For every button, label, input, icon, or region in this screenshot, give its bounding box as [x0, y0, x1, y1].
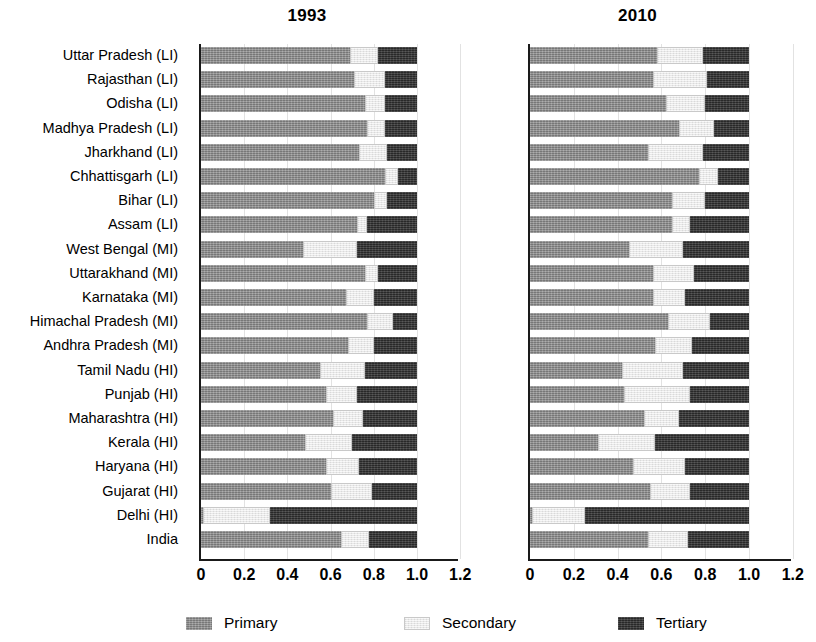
category-label: Rajasthan (LI): [0, 72, 178, 86]
bar-segment-tertiary: [714, 120, 749, 137]
bar-segment-tertiary: [378, 47, 417, 64]
bar-segment-tertiary: [270, 507, 417, 524]
bar-segment-primary: [201, 483, 331, 500]
bar-segment-secondary: [365, 95, 384, 112]
x-tick-label: 1.0: [729, 566, 769, 584]
gridline: [460, 44, 461, 559]
category-axis-labels: Uttar Pradesh (LI)Rajasthan (LI)Odisha (…: [0, 44, 186, 561]
bar-segment-secondary: [699, 168, 719, 185]
stacked-bar: [530, 71, 793, 88]
bar-segment-tertiary: [352, 434, 417, 451]
panel-title-1993: 1993: [199, 6, 415, 26]
bar-segment-tertiary: [393, 313, 417, 330]
bar-segment-primary: [201, 265, 365, 282]
bar-segment-primary: [201, 386, 326, 403]
stacked-bar: [530, 289, 793, 306]
category-label: Karnataka (MI): [0, 290, 178, 304]
bar-segment-tertiary: [374, 289, 417, 306]
bar-segment-secondary: [365, 265, 378, 282]
bar-segment-primary: [201, 289, 346, 306]
bar-segment-secondary: [331, 483, 372, 500]
bar-segment-tertiary: [385, 120, 417, 137]
bar-segment-primary: [530, 71, 653, 88]
category-label: West Bengal (MI): [0, 242, 178, 256]
bar-segment-secondary: [333, 410, 363, 427]
bar-segment-primary: [530, 458, 633, 475]
bar-segment-secondary: [648, 531, 687, 548]
legend-item-tertiary: Tertiary: [618, 612, 707, 634]
bar-segment-primary: [201, 337, 348, 354]
stacked-bar: [530, 531, 793, 548]
bar-segment-primary: [530, 216, 672, 233]
bar-segment-primary: [530, 313, 668, 330]
bar-segment-tertiary: [387, 144, 417, 161]
bar-segment-tertiary: [685, 289, 749, 306]
stacked-bar: [530, 265, 793, 282]
stacked-bar: [530, 95, 793, 112]
stacked-bar: [530, 458, 793, 475]
category-label: India: [0, 532, 178, 546]
bar-segment-secondary: [672, 216, 690, 233]
bar-segment-primary: [201, 362, 320, 379]
bar-segment-secondary: [348, 337, 374, 354]
bar-segment-tertiary: [690, 386, 749, 403]
bar-segment-primary: [201, 47, 350, 64]
x-tick-label: 0.4: [598, 566, 638, 584]
bar-segment-tertiary: [357, 386, 417, 403]
bar-segment-primary: [530, 144, 648, 161]
category-label: Andhra Pradesh (MI): [0, 338, 178, 352]
bar-segment-primary: [201, 120, 367, 137]
bar-segment-secondary: [655, 337, 692, 354]
stacked-bar: [201, 144, 460, 161]
bar-segment-primary: [530, 483, 650, 500]
bar-segment-primary: [201, 168, 385, 185]
bar-segment-tertiary: [692, 337, 749, 354]
bar-segment-tertiary: [679, 410, 749, 427]
category-label: Uttarakhand (MI): [0, 266, 178, 280]
stacked-bar: [530, 507, 793, 524]
x-tick-label: 0.6: [311, 566, 351, 584]
bar-segment-tertiary: [703, 47, 749, 64]
bar-segment-tertiary: [655, 434, 749, 451]
legend-swatch-tertiary: [618, 617, 644, 630]
x-tick-label: 0: [510, 566, 550, 584]
bar-segment-primary: [201, 531, 341, 548]
stacked-bar: [201, 386, 460, 403]
panel-title-2010: 2010: [528, 6, 747, 26]
bar-segment-primary: [530, 95, 666, 112]
x-tick-label: 1.2: [440, 566, 480, 584]
category-label: Delhi (HI): [0, 508, 178, 522]
stacked-bar: [530, 434, 793, 451]
stacked-bar: [530, 216, 793, 233]
bar-segment-primary: [530, 289, 653, 306]
bar-segment-tertiary: [372, 483, 417, 500]
stacked-bar: [201, 458, 460, 475]
gridline: [793, 44, 794, 559]
stacked-bar: [530, 241, 793, 258]
category-label: Odisha (LI): [0, 96, 178, 110]
bar-segment-primary: [201, 192, 374, 209]
bar-segment-primary: [530, 337, 655, 354]
bar-segment-tertiary: [585, 507, 749, 524]
bar-segment-tertiary: [367, 216, 417, 233]
stacked-bar: [530, 337, 793, 354]
stacked-bar: [201, 95, 460, 112]
bar-segment-primary: [201, 241, 303, 258]
stacked-bar: [201, 289, 460, 306]
bar-segment-tertiary: [690, 483, 749, 500]
stacked-bar: [201, 483, 460, 500]
bar-segment-secondary: [648, 144, 703, 161]
x-axis-line: [528, 559, 791, 561]
x-tick-label: 0.8: [685, 566, 725, 584]
bar-segment-secondary: [350, 47, 378, 64]
category-label: Gujarat (HI): [0, 484, 178, 498]
plot-area-2010: [528, 44, 791, 561]
bar-segment-secondary: [657, 47, 703, 64]
category-label: Chhattisgarh (LI): [0, 169, 178, 183]
stacked-bar: [530, 168, 793, 185]
bar-segment-secondary: [341, 531, 369, 548]
bar-segment-secondary: [357, 216, 368, 233]
stacked-bar: [201, 434, 460, 451]
bar-segment-primary: [201, 434, 305, 451]
bar-segment-primary: [530, 434, 598, 451]
